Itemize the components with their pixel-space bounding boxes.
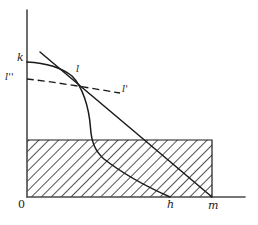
diagram-canvas — [0, 0, 258, 225]
label-m: m — [208, 200, 218, 211]
label-k: k — [17, 52, 24, 63]
figure-container: k l'' l l' 0 h m — [0, 0, 258, 225]
label-l-prime: l' — [122, 84, 128, 94]
label-h: h — [167, 199, 174, 210]
label-l: l — [76, 64, 79, 74]
label-origin: 0 — [18, 199, 25, 210]
label-l-double-prime: l'' — [5, 72, 14, 82]
hatched-region — [27, 140, 212, 197]
